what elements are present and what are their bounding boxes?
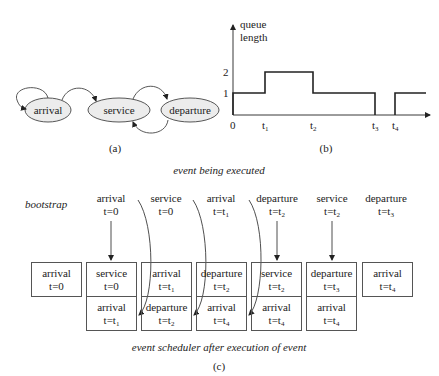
executed-event-5: servicet=t2 (316, 192, 347, 218)
executed-event-3: arrivalt=t1 (207, 192, 236, 218)
y-axis-label-line1: queue (240, 18, 266, 31)
x-tick-t4: t4 (392, 119, 399, 132)
executed-event-6: departuret=t3 (365, 192, 407, 218)
y-axis-label-line2: length (240, 31, 268, 44)
scheduler-cell: arrivalt=t1 (141, 262, 192, 297)
caption-a: (a) (109, 142, 121, 155)
caption-c: (c) (213, 360, 225, 373)
scheduler-cell: departuret=t2 (141, 296, 192, 331)
departure-to-service-edge (133, 120, 168, 133)
x-tick-t1: t1 (262, 119, 269, 132)
arrival-to-service-edge (62, 88, 96, 101)
x-tick-t2: t2 (310, 119, 317, 132)
x-tick-t3: t3 (372, 119, 379, 132)
departure-node-label: departure (169, 104, 211, 117)
scheduler-cell: departuret=t3 (306, 262, 357, 297)
event-being-executed-label: event being executed (173, 164, 265, 177)
service-node-label: service (103, 104, 134, 117)
arrival-node-label: arrival (34, 104, 63, 117)
scheduler-cell: arrivalt=t1 (86, 296, 137, 331)
origin-label: 0 (230, 119, 236, 132)
scheduler-cell: departuret=t2 (196, 262, 247, 297)
scheduler-cell: arrivalt=t4 (196, 296, 247, 331)
queue-length-step-line (233, 72, 375, 115)
scheduler-cell: arrivalt=t4 (362, 262, 413, 297)
executed-event-2: servicet=0 (150, 192, 181, 218)
y-tick-2: 2 (223, 66, 229, 79)
caption-b: (b) (320, 142, 333, 155)
queue-length-step-line-tail (395, 93, 426, 115)
scheduler-cell: arrivalt=t4 (306, 296, 357, 331)
scheduler-cell: arrivalt=t4 (251, 296, 302, 331)
scheduler-cell: servicet=0 (86, 262, 137, 297)
y-tick-1: 1 (223, 87, 229, 100)
executed-event-4: departuret=t2 (256, 192, 298, 218)
scheduler-cell: arrivalt=0 (31, 262, 82, 297)
service-to-departure-edge (133, 86, 167, 99)
scheduler-cell: servicet=t2 (251, 262, 302, 297)
executed-event-1: arrivalt=0 (97, 192, 126, 218)
bootstrap-label: bootstrap (25, 198, 67, 211)
event-scheduler-label: event scheduler after execution of event (132, 341, 306, 354)
